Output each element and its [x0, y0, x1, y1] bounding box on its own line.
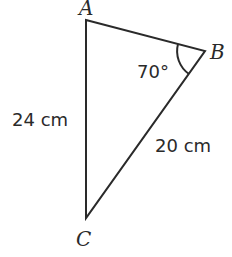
triangle-abc	[86, 20, 205, 218]
triangle-diagram: A B C 70° 24 cm 20 cm	[0, 0, 232, 257]
vertex-label-a: A	[77, 0, 93, 20]
side-ac-label: 24 cm	[12, 109, 68, 130]
angle-b-label: 70°	[137, 61, 169, 82]
vertex-label-c: C	[76, 227, 91, 251]
vertex-label-b: B	[209, 40, 225, 64]
angle-b-arc	[177, 44, 189, 74]
side-bc-label: 20 cm	[155, 135, 211, 156]
